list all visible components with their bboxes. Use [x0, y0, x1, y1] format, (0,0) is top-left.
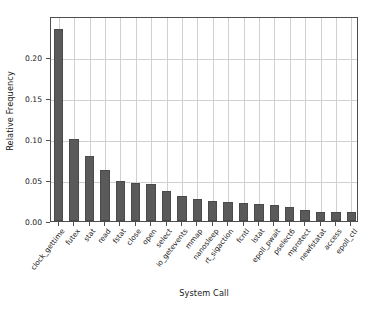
bar: [85, 156, 95, 221]
x-tick-mark: [73, 222, 74, 226]
gridline-vertical: [244, 18, 245, 221]
bar: [54, 29, 64, 221]
bar: [116, 181, 126, 221]
bar: [146, 184, 156, 221]
gridline-vertical: [182, 18, 183, 221]
x-tick-label-text: futex: [63, 227, 81, 247]
y-tick-label: 0.10: [0, 136, 46, 145]
x-axis-title: System Call: [50, 288, 358, 298]
bar: [193, 199, 203, 221]
bar: [300, 210, 310, 221]
y-tick-label: 0.05: [0, 177, 46, 186]
bar: [254, 204, 264, 221]
bar: [270, 205, 280, 221]
bar: [316, 212, 326, 221]
y-tick-label: 0.00: [0, 218, 46, 227]
plot-area: [50, 17, 358, 222]
gridline-vertical: [274, 18, 275, 221]
bar-chart-figure: Relative Frequency 0.000.050.100.150.20 …: [0, 0, 383, 310]
bar: [208, 201, 218, 221]
x-tick-mark: [166, 222, 167, 226]
x-tick-mark: [58, 222, 59, 226]
gridline-horizontal: [51, 100, 357, 101]
x-tick-label-text: fcntl: [234, 227, 251, 245]
y-axis-title: Relative Frequency: [2, 0, 18, 222]
gridline-vertical: [305, 18, 306, 221]
x-tick-label-text: read: [95, 227, 112, 245]
bar: [331, 212, 341, 221]
gridline-horizontal: [51, 141, 357, 142]
x-tick-mark: [104, 222, 105, 226]
x-tick-mark: [150, 222, 151, 226]
x-tick-mark: [273, 222, 274, 226]
bar: [285, 207, 295, 221]
bar: [223, 202, 233, 221]
y-tick-label: 0.20: [0, 54, 46, 63]
bar: [347, 212, 357, 221]
x-tick-mark: [212, 222, 213, 226]
gridline-vertical: [336, 18, 337, 221]
gridline-vertical: [351, 18, 352, 221]
bar: [177, 196, 187, 221]
y-tick-label: 0.15: [0, 95, 46, 104]
bar: [100, 170, 110, 221]
gridline-vertical: [213, 18, 214, 221]
bar: [162, 191, 172, 221]
bar: [131, 183, 141, 221]
x-tick-mark: [335, 222, 336, 226]
gridline-vertical: [228, 18, 229, 221]
gridline-vertical: [290, 18, 291, 221]
bar: [239, 203, 249, 221]
x-tick-mark: [350, 222, 351, 226]
x-tick-label-text: clock_gettime: [28, 227, 66, 272]
x-tick-label-text: stat: [81, 227, 97, 243]
gridline-vertical: [197, 18, 198, 221]
gridline-vertical: [259, 18, 260, 221]
x-tick-mark: [89, 222, 90, 226]
x-tick-mark: [243, 222, 244, 226]
gridline-horizontal: [51, 182, 357, 183]
y-tick-mark: [46, 222, 50, 223]
gridline-vertical: [321, 18, 322, 221]
gridline-horizontal: [51, 59, 357, 60]
x-tick-mark: [181, 222, 182, 226]
bar: [69, 139, 79, 221]
x-tick-label-text: close: [125, 227, 143, 247]
